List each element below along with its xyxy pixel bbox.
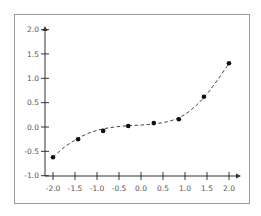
chart-frame (15, 15, 250, 204)
data-point (151, 121, 156, 126)
data-point (101, 129, 106, 134)
data-point (202, 95, 207, 100)
x-tick-label: 2.0 (223, 184, 235, 193)
x-tick-label: 1.5 (201, 184, 213, 193)
data-point (227, 61, 232, 66)
y-tick-label: 0.0 (27, 123, 39, 132)
data-point (76, 137, 81, 142)
y-tick-label: 1.5 (27, 50, 39, 59)
y-tick-label: 0.5 (27, 98, 39, 107)
y-tick-label: -1.0 (24, 171, 39, 180)
data-point (126, 124, 131, 129)
data-point (51, 155, 56, 160)
y-tick-label: 2.0 (27, 25, 39, 34)
y-tick-label: -0.5 (24, 147, 39, 156)
x-tick-label: 0.0 (135, 184, 147, 193)
chart: -2.0-1.5-1.0-0.50.00.51.01.52.0-1.0-0.50… (0, 0, 261, 216)
x-tick-label: 0.5 (157, 184, 169, 193)
y-tick-label: 1.0 (27, 74, 39, 83)
x-tick-label: -2.0 (46, 184, 61, 193)
x-tick-label: -1.0 (90, 184, 105, 193)
x-tick-label: -0.5 (112, 184, 127, 193)
x-tick-label: 1.0 (179, 184, 191, 193)
x-tick-label: -1.5 (68, 184, 83, 193)
data-point (177, 117, 182, 122)
